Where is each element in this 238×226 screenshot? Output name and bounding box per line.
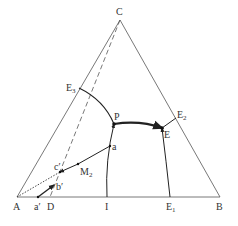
label-i: I — [105, 201, 108, 212]
label-a-prime: a′ — [34, 201, 41, 212]
label-p: P — [114, 111, 120, 122]
ternary-diagram: C A B E3 E2 E1 P E a M2 c′ b′ a′ D I — [0, 0, 238, 226]
label-c: C — [116, 6, 123, 17]
triangle-outline — [17, 20, 220, 197]
label-e: E — [164, 129, 170, 140]
label-b: B — [216, 201, 223, 212]
boundary-curve-i-p — [107, 124, 114, 197]
label-c-prime: c′ — [54, 161, 61, 172]
dotted-line-a-cprime — [17, 172, 60, 197]
label-a: A — [13, 201, 21, 212]
label-e1: E1 — [166, 201, 176, 214]
label-e2: E2 — [177, 109, 187, 122]
label-b-prime: b′ — [56, 181, 63, 192]
boundary-curve-p-e — [114, 123, 162, 128]
label-d: D — [47, 201, 54, 212]
label-m2: M2 — [80, 166, 93, 179]
boundary-curve-e3-p — [79, 88, 114, 124]
label-e3: E3 — [66, 82, 76, 95]
label-a-point: a — [112, 141, 117, 152]
boundary-line-e2-e — [162, 118, 176, 128]
path-aprime-bprime — [38, 185, 54, 197]
path-a-m2 — [78, 146, 110, 164]
